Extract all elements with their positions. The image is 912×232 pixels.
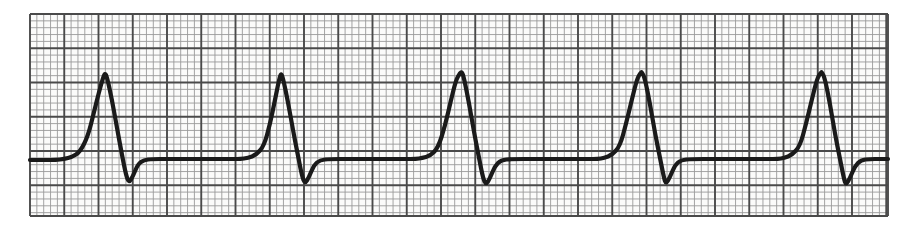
ecg-chart-svg <box>0 0 912 232</box>
ecg-canvas-wrapper <box>0 0 912 232</box>
ecg-strip-container <box>0 0 912 232</box>
